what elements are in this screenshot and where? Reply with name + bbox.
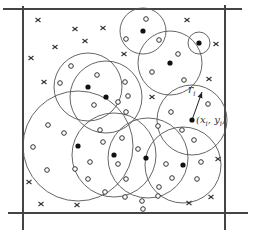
cross-point-icon bbox=[27, 180, 32, 184]
cross-point-icon bbox=[75, 203, 80, 207]
center-dot-icon bbox=[140, 28, 145, 33]
open-point-icon bbox=[192, 138, 197, 143]
arrowhead-icon bbox=[198, 92, 203, 98]
open-point-icon bbox=[157, 185, 162, 190]
center-dot-icon bbox=[189, 117, 194, 122]
open-point-icon bbox=[195, 177, 200, 182]
center-dot-icon bbox=[111, 152, 116, 157]
open-point-icon bbox=[170, 176, 175, 181]
open-point-icon bbox=[101, 140, 106, 145]
open-point-icon bbox=[180, 128, 185, 133]
cross-point-icon bbox=[185, 18, 190, 22]
open-point-icon bbox=[31, 145, 36, 150]
open-point-icon bbox=[206, 102, 211, 107]
open-point-icon bbox=[95, 73, 100, 78]
open-point-icon bbox=[123, 80, 128, 85]
open-point-icon bbox=[116, 162, 121, 167]
cross-point-icon bbox=[216, 157, 221, 161]
cross-point-icon bbox=[36, 18, 41, 22]
center-dot-icon bbox=[103, 94, 108, 99]
center-dot-icon bbox=[180, 162, 185, 167]
open-point-icon bbox=[88, 160, 93, 165]
open-point-icon bbox=[164, 162, 169, 167]
cross-point-icon bbox=[209, 195, 214, 199]
open-point-icon bbox=[150, 70, 155, 75]
open-point-icon bbox=[69, 64, 74, 69]
open-point-icon bbox=[123, 195, 128, 200]
open-point-icon bbox=[116, 100, 121, 105]
open-point-icon bbox=[156, 124, 161, 129]
cross-point-icon bbox=[42, 80, 47, 84]
center-dot-icon bbox=[196, 40, 201, 45]
center-dot-icon bbox=[143, 155, 148, 160]
open-point-icon bbox=[157, 38, 162, 43]
open-point-icon bbox=[92, 103, 97, 108]
open-point-icon bbox=[126, 94, 131, 99]
open-point-icon bbox=[45, 168, 50, 173]
open-point-icon bbox=[169, 110, 174, 115]
cross-point-icon bbox=[29, 56, 34, 60]
open-point-icon bbox=[141, 207, 146, 212]
open-point-icon bbox=[103, 190, 108, 195]
open-point-icon bbox=[144, 17, 149, 22]
center-dot-icon bbox=[167, 60, 172, 65]
open-point-icon bbox=[124, 177, 129, 182]
cross-point-icon bbox=[39, 202, 44, 206]
cross-point-icon bbox=[122, 52, 127, 56]
open-point-icon bbox=[46, 123, 51, 128]
open-point-icon bbox=[156, 194, 161, 199]
covered-points bbox=[31, 17, 211, 212]
open-point-icon bbox=[199, 160, 204, 165]
open-point-icon bbox=[182, 78, 187, 83]
center-dot-icon bbox=[75, 143, 80, 148]
center-dot-icon bbox=[85, 84, 90, 89]
cross-point-icon bbox=[150, 95, 155, 99]
open-point-icon bbox=[73, 167, 78, 172]
cross-point-icon bbox=[53, 45, 58, 49]
open-point-icon bbox=[86, 177, 91, 182]
open-point-icon bbox=[98, 128, 103, 133]
open-point-icon bbox=[176, 52, 181, 57]
open-point-icon bbox=[124, 37, 129, 42]
open-point-icon bbox=[120, 136, 125, 141]
cross-point-icon bbox=[101, 26, 106, 30]
radius-arrow bbox=[192, 92, 202, 120]
cross-point-icon bbox=[83, 39, 88, 43]
open-point-icon bbox=[140, 199, 145, 204]
open-point-icon bbox=[62, 131, 67, 136]
cross-point-icon bbox=[214, 42, 219, 46]
open-point-icon bbox=[124, 110, 129, 115]
cross-point-icon bbox=[207, 77, 212, 81]
cross-point-icon bbox=[73, 27, 78, 31]
open-point-icon bbox=[58, 81, 63, 86]
open-point-icon bbox=[136, 147, 141, 152]
coverage-diagram bbox=[0, 0, 253, 235]
